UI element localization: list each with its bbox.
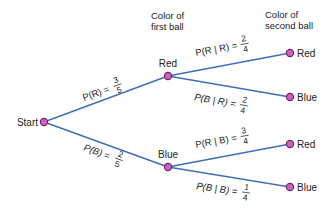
edge-red-to-blue — [168, 76, 290, 97]
header-first-ball-line1: Color of — [151, 10, 185, 21]
label-second-blue-after-blue: Blue — [297, 182, 317, 193]
svg-text:4: 4 — [242, 192, 248, 203]
svg-text:P(R) =: P(R) = — [81, 83, 111, 103]
edge-blue-to-red — [168, 144, 290, 167]
svg-text:P(B | B) =: P(B | B) = — [196, 180, 239, 197]
node-start — [40, 118, 47, 125]
label-second-red-after-blue: Red — [297, 139, 315, 150]
node-second-blue-after-blue — [286, 183, 293, 190]
node-second-red-after-red — [286, 49, 293, 56]
svg-text:4: 4 — [242, 135, 249, 146]
prob-start-to-red: P(R) = 3 5 — [79, 74, 125, 107]
probability-tree-diagram: Color of first ball Color of second ball… — [0, 0, 333, 221]
prob-red-to-blue: P(B | R) = 2 4 — [193, 86, 250, 116]
prob-blue-to-red: P(R | B) = 3 4 — [194, 125, 251, 155]
prob-red-to-red: P(R | R) = 2 4 — [194, 33, 251, 63]
svg-text:P(B | R) =: P(B | R) = — [194, 91, 238, 109]
svg-text:P(R | R) =: P(R | R) = — [194, 40, 238, 58]
svg-text:2: 2 — [242, 94, 249, 105]
svg-text:5: 5 — [113, 159, 121, 170]
header-second-ball-line1: Color of — [265, 9, 299, 20]
node-second-blue-after-red — [286, 93, 293, 100]
edge-red-to-red — [168, 53, 290, 76]
svg-text:3: 3 — [240, 125, 247, 136]
svg-text:5: 5 — [115, 84, 123, 95]
header-first-ball-line2: first ball — [151, 21, 184, 32]
label-second-red-after-red: Red — [297, 48, 315, 59]
label-start: Start — [17, 117, 38, 128]
svg-text:4: 4 — [240, 105, 247, 116]
label-second-blue-after-red: Blue — [297, 92, 317, 103]
prob-start-to-blue: P(B) = 2 5 — [81, 137, 127, 170]
svg-text:4: 4 — [242, 43, 249, 54]
node-first-red — [164, 72, 171, 79]
svg-text:P(R | B) =: P(R | B) = — [194, 132, 238, 150]
svg-text:1: 1 — [244, 182, 250, 193]
label-first-red: Red — [159, 58, 177, 69]
label-first-blue: Blue — [158, 149, 178, 160]
header-second-ball-line2: second ball — [265, 20, 313, 31]
node-second-red-after-blue — [286, 140, 293, 147]
node-first-blue — [164, 163, 171, 170]
svg-text:2: 2 — [240, 33, 247, 44]
